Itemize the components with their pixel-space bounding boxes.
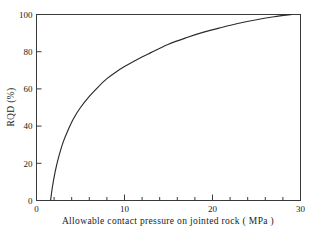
y-tick-label: 40	[24, 121, 34, 131]
y-tick-label: 20	[24, 159, 34, 169]
y-tick-label: 100	[19, 10, 33, 20]
x-tick-label: 10	[120, 204, 130, 214]
y-tick-label: 0	[28, 196, 33, 206]
y-tick-label: 60	[24, 84, 34, 94]
figure-container: 020406080100 0102030 Allowable contact p…	[0, 0, 318, 236]
y-axis-title: RQD (%)	[6, 87, 17, 126]
x-axis-minor-ticks	[54, 197, 283, 201]
x-axis-title: Allowable contact pressure on jointed ro…	[62, 216, 274, 227]
series-group	[51, 15, 292, 201]
y-tick-label: 80	[24, 47, 34, 57]
x-axis-tick-labels: 0102030	[34, 204, 305, 214]
y-axis-tick-labels: 020406080100	[19, 10, 33, 206]
x-axis-major-ticks	[37, 195, 301, 201]
plot-frame	[37, 15, 301, 201]
data-curve-rqd	[51, 15, 292, 201]
x-tick-label: 30	[296, 204, 306, 214]
x-tick-label: 20	[208, 204, 218, 214]
chart-canvas: 020406080100 0102030 Allowable contact p…	[0, 0, 318, 236]
y-axis-ticks	[37, 15, 42, 201]
x-tick-label: 0	[34, 204, 39, 214]
